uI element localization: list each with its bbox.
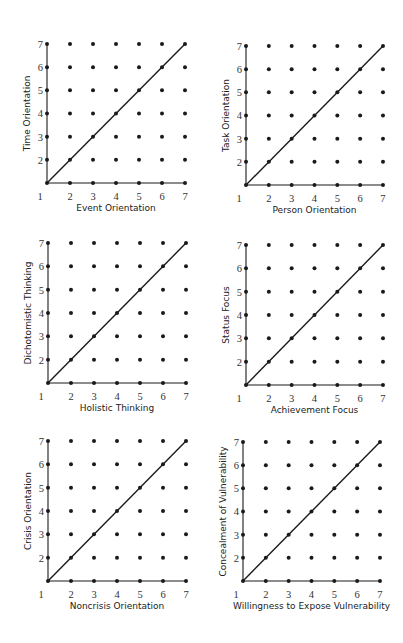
chart-2: 1234567234567Person OrientationTask Orie… [221, 41, 386, 215]
grid-dot [381, 44, 385, 48]
grid-dot [114, 65, 118, 69]
grid-dot [381, 90, 385, 94]
grid-dot [290, 183, 294, 187]
y-axis-label: Dichotomistic Thinking [23, 262, 33, 365]
y-tick-label: 2 [39, 355, 44, 366]
grid-dot [358, 360, 362, 364]
grid-dot [92, 334, 96, 338]
grid-dot [161, 579, 165, 583]
grid-dot [381, 243, 385, 247]
y-tick-label: 6 [234, 460, 239, 471]
grid-dot [267, 243, 271, 247]
grid-dot [92, 532, 96, 536]
grid-dot [183, 111, 187, 115]
grid-dot [290, 383, 294, 387]
y-tick-label: 7 [234, 437, 239, 448]
grid-dot [287, 579, 291, 583]
grid-dot [92, 358, 96, 362]
grid-dot [290, 266, 294, 270]
grid-dot [241, 463, 245, 467]
grid-dot [381, 183, 385, 187]
x-tick-label: 6 [159, 191, 164, 202]
x-tick-label: 7 [380, 393, 385, 404]
grid-dot [267, 336, 271, 340]
grid-dot [312, 113, 316, 117]
y-tick-label: 5 [234, 483, 239, 494]
grid-dot [309, 533, 313, 537]
x-tick-label: 2 [266, 193, 271, 204]
grid-dot [115, 532, 119, 536]
grid-dot [290, 160, 294, 164]
y-tick-label: 3 [237, 333, 242, 344]
grid-dot [161, 311, 165, 315]
grid-dot [264, 533, 268, 537]
chart-1: 1234567234567Event OrientationTime Orien… [22, 39, 188, 213]
y-axis-label: Time Orientation [22, 76, 32, 153]
grid-dot [355, 463, 359, 467]
grid-dot [335, 336, 339, 340]
grid-dot [137, 88, 141, 92]
grid-dot [161, 381, 165, 385]
x-tick-label: 3 [289, 393, 294, 404]
grid-dot [287, 533, 291, 537]
grid-dot [312, 266, 316, 270]
grid-dot [68, 181, 72, 185]
grid-dot [381, 360, 385, 364]
x-tick-label: 4 [309, 589, 315, 600]
grid-dot [160, 111, 164, 115]
y-tick-label: 7 [39, 436, 44, 447]
grid-dot [309, 579, 313, 583]
grid-dot [355, 440, 359, 444]
grid-dot [46, 311, 50, 315]
grid-dot [267, 290, 271, 294]
y-tick-label: 4 [237, 110, 243, 121]
grid-dot [46, 509, 50, 513]
grid-dot [244, 290, 248, 294]
grid-dot [290, 290, 294, 294]
grid-dot [46, 288, 50, 292]
grid-dot [69, 288, 73, 292]
grid-dot [241, 509, 245, 513]
grid-dot [161, 532, 165, 536]
x-tick-label: 7 [183, 391, 188, 402]
y-tick-label: 7 [38, 39, 43, 50]
grid-dot [378, 579, 382, 583]
grid-dot [335, 160, 339, 164]
grid-dot [244, 336, 248, 340]
grid-dot [290, 336, 294, 340]
grid-dot [309, 509, 313, 513]
grid-dot [91, 65, 95, 69]
grid-dot [115, 486, 119, 490]
grid-dot [335, 383, 339, 387]
grid-dot [290, 137, 294, 141]
x-axis-label: Achievement Focus [271, 405, 359, 415]
grid-dot [115, 381, 119, 385]
grid-dot [137, 181, 141, 185]
grid-dot [46, 532, 50, 536]
grid-dot [184, 288, 188, 292]
grid-dot [115, 509, 119, 513]
y-tick-label: 5 [38, 85, 43, 96]
grid-dot [161, 462, 165, 466]
y-tick-label: 4 [39, 308, 45, 319]
grid-dot [114, 135, 118, 139]
y-tick-label: 6 [237, 64, 242, 75]
grid-dot [312, 90, 316, 94]
grid-dot [335, 313, 339, 317]
grid-dot [332, 556, 336, 560]
grid-dot [264, 440, 268, 444]
grid-dot [267, 137, 271, 141]
grid-dot [358, 113, 362, 117]
grid-dot [358, 383, 362, 387]
grid-dot [138, 509, 142, 513]
grid-dot [137, 65, 141, 69]
grid-dot [287, 556, 291, 560]
grid-dot [267, 160, 271, 164]
y-tick-label: 3 [237, 134, 242, 145]
grid-dot [290, 313, 294, 317]
x-tick-label: 4 [113, 191, 119, 202]
y-tick-label: 6 [39, 459, 44, 470]
grid-dot [68, 158, 72, 162]
grid-dot [312, 243, 316, 247]
grid-dot [45, 135, 49, 139]
